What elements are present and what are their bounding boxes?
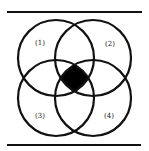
set-3-label: (3) <box>35 112 45 120</box>
venn-diagram: (1) (2) (3) (4) <box>0 0 149 151</box>
set-4-label: (4) <box>104 112 114 120</box>
set-1-label: (1) <box>35 39 45 47</box>
set-2-label: (2) <box>105 40 115 48</box>
